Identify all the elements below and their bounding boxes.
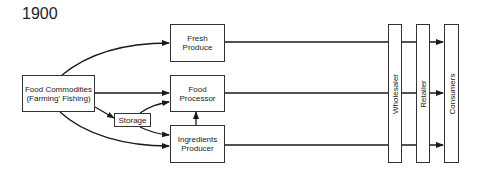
retailer-label: Retailer	[419, 80, 428, 108]
wholesaler-label: Wholesaler	[391, 73, 400, 113]
consumers-label: Consumers	[447, 73, 456, 114]
node-fresh-produce: Fresh Produce	[170, 24, 225, 62]
node-food-commodities: Food Commodities (Farming' Fishing)	[22, 75, 95, 112]
food-commodities-line1: Food Commodities	[25, 85, 92, 94]
node-food-processor: Food Processor	[170, 75, 225, 112]
ingredients-producer-line2: Producer	[178, 144, 218, 153]
node-retailer: Retailer	[416, 24, 430, 163]
ingredients-producer-line1: Ingredients	[178, 135, 218, 144]
node-ingredients-producer: Ingredients Producer	[170, 125, 225, 163]
edge-storage-processor	[140, 102, 169, 113]
fresh-produce-line2: Produce	[183, 43, 213, 52]
fresh-produce-line1: Fresh	[183, 34, 213, 43]
edge-commodities-fresh	[62, 43, 169, 75]
food-commodities-line2: (Farming' Fishing)	[25, 94, 92, 103]
node-wholesaler: Wholesaler	[388, 24, 402, 163]
node-storage: Storage	[114, 113, 151, 127]
food-processor-line1: Food	[179, 85, 215, 94]
node-consumers: Consumers	[444, 24, 459, 163]
edge-commodities-storage	[95, 107, 114, 118]
food-processor-line2: Processor	[179, 94, 215, 103]
edge-storage-ingredients	[140, 127, 169, 135]
storage-label: Storage	[118, 116, 146, 125]
